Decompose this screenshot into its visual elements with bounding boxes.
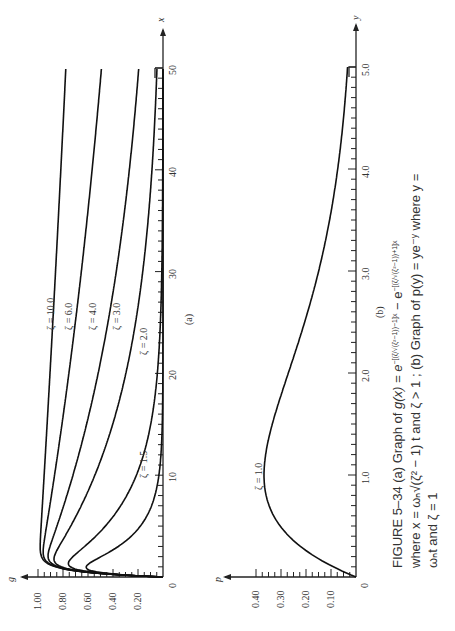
caption-line-3: ωₙt and ζ = 1: [425, 493, 440, 568]
panel-a: g x 1.00 0.80 0.60 0.40 0.20 0 10 20 30 …: [5, 17, 195, 610]
panel-a-g-tick-0-60: 0.60: [82, 593, 93, 611]
panel-a-label: (a): [183, 314, 195, 325]
panel-b-y-axis-name: y: [350, 15, 361, 21]
curve-label-zeta-4: ζ = 4.0: [87, 303, 99, 330]
panel-b-origin-label: 0: [359, 583, 370, 588]
panel-b-p-tick-0-30: 0.30: [275, 591, 286, 609]
curve-label-zeta-6: ζ = 6.0: [63, 303, 75, 330]
panel-a-g-axis-arrow-icon: [20, 574, 28, 580]
panel-b-y-tick-1-0: 1.0: [360, 472, 371, 485]
caption-line-2: where x = ωₙ√(ζ² − 1) t and ζ > 1 ; (b) …: [408, 174, 423, 569]
panel-a-x-tick-10: 10: [167, 472, 178, 482]
panel-a-g-axis-name: g: [5, 577, 16, 582]
panel-b-y-axis-arrow-icon: [353, 23, 359, 31]
panel-a-origin-label: 0: [167, 583, 178, 588]
panel-b-p-axis-arrow-icon: [223, 574, 231, 580]
curve-label-zeta-1-5: ζ = 1.5: [138, 451, 150, 478]
panel-a-curves: [40, 69, 163, 577]
panel-a-x-tick-50: 50: [167, 65, 178, 75]
panel-a-ticks: [38, 68, 163, 577]
panel-b-p-tick-0-40: 0.40: [250, 591, 261, 609]
panel-b-y-tick-3-0: 3.0: [360, 268, 371, 281]
panel-a-g-tick-0-80: 0.80: [57, 593, 68, 611]
curve-label-zeta-3: ζ = 3.0: [111, 303, 123, 330]
panel-a-g-tick-1-00: 1.00: [32, 593, 43, 611]
curve-zeta-6: [43, 69, 163, 577]
figure-canvas: g x 1.00 0.80 0.60 0.40 0.20 0 10 20 30 …: [0, 0, 455, 631]
panel-a-g-tick-0-20: 0.20: [132, 593, 143, 611]
panel-a-x-tick-20: 20: [167, 370, 178, 380]
panel-b: p y 0.40 0.30 0.20 0.10 0 1.0 2.0 3.0 4.…: [212, 15, 386, 608]
curve-label-zeta-1: ζ = 1.0: [253, 463, 265, 490]
curve-label-zeta-2: ζ = 2.0: [138, 328, 150, 355]
panel-a-x-axis-arrow-icon: [160, 28, 166, 36]
panel-a-x-tick-30: 30: [167, 269, 178, 279]
figure-caption: FIGURE 5–34 (a) Graph of g(x) = e−[(ζ/√(…: [390, 174, 440, 569]
panel-b-p-tick-0-10: 0.10: [325, 591, 336, 609]
panel-b-y-tick-2-0: 2.0: [360, 370, 371, 383]
panel-b-label: (b): [374, 306, 386, 318]
panel-b-y-tick-4-0: 4.0: [360, 166, 371, 179]
caption-line-1: FIGURE 5–34 (a) Graph of g(x) = e−[(ζ/√(…: [390, 240, 405, 568]
curve-p-of-y: [264, 67, 356, 577]
panel-b-p-axis-name: p: [212, 577, 223, 583]
panel-a-x-axis-name: x: [155, 17, 166, 23]
panel-a-g-tick-0-40: 0.40: [107, 593, 118, 611]
panel-b-y-tick-5-0: 5.0: [360, 64, 371, 77]
curve-label-zeta-10: ζ = 10.0: [45, 298, 57, 330]
panel-b-p-tick-0-20: 0.20: [300, 591, 311, 609]
panel-a-x-tick-40: 40: [167, 167, 178, 177]
curve-zeta-10: [40, 69, 163, 577]
panel-b-curves: [264, 67, 356, 577]
